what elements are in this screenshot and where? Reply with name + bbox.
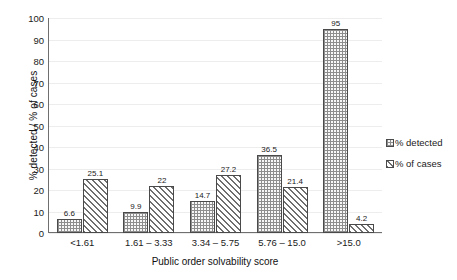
x-tick-label: 1.61 – 3.33	[116, 237, 183, 248]
y-tick-label-20: 20	[14, 185, 44, 196]
bar-value-label: 9.9	[130, 202, 141, 211]
y-tick-label-90: 90	[14, 34, 44, 45]
bar-cases[interactable]: 22	[149, 186, 174, 233]
bar-detected[interactable]: 9.9	[123, 212, 148, 233]
legend-label: % detected	[395, 137, 443, 148]
bar-detected[interactable]: 14.7	[190, 201, 215, 233]
plot-area: 100 90 80 70 60 50 40 30 20 10 0	[48, 18, 382, 233]
bar-cases[interactable]: 21.4	[283, 187, 308, 233]
bar-value-label: 14.7	[195, 191, 211, 200]
bar-value-label: 36.5	[261, 145, 277, 154]
y-tick-label-60: 60	[14, 99, 44, 110]
bar-cases[interactable]: 25.1	[83, 179, 108, 233]
bar-value-label: 21.4	[287, 177, 303, 186]
x-tick-label: 3.34 – 5.75	[182, 237, 249, 248]
bar-detected[interactable]: 6.6	[57, 219, 82, 233]
y-tick-label-40: 40	[14, 142, 44, 153]
bar-group: 9.9 22	[116, 18, 183, 233]
x-tick-label: >15.0	[315, 237, 382, 248]
y-tick-label-80: 80	[14, 56, 44, 67]
bar-cases[interactable]: 27.2	[216, 175, 241, 233]
bar-value-label: 4.2	[356, 214, 367, 223]
legend-swatch-icon	[386, 139, 394, 147]
x-axis-title: Public order solvability score	[48, 256, 382, 267]
bar-group: 36.5 21.4	[249, 18, 316, 233]
gridline-0: 0	[49, 233, 382, 234]
y-tick-label-70: 70	[14, 77, 44, 88]
x-tick-label: 5.76 – 15.0	[249, 237, 316, 248]
bar-value-label: 22	[157, 176, 166, 185]
bar-value-label: 95	[331, 19, 340, 28]
legend-item-cases[interactable]: % of cases	[386, 158, 443, 169]
bar-detected[interactable]: 95	[323, 29, 348, 233]
bar-value-label: 25.1	[88, 169, 104, 178]
bar-detected[interactable]: 36.5	[257, 155, 282, 233]
y-tick-label-30: 30	[14, 163, 44, 174]
x-tick-label: <1.61	[49, 237, 116, 248]
bar-value-label: 6.6	[64, 209, 75, 218]
bar-chart: % detected / % of cases 100 90 80 70 60 …	[0, 0, 457, 280]
bar-groups: 6.6 25.1 9.9 22 14.7 27.2	[49, 18, 382, 233]
legend-label: % of cases	[395, 158, 441, 169]
bar-group: 6.6 25.1	[49, 18, 116, 233]
legend-item-detected[interactable]: % detected	[386, 137, 443, 148]
x-tick-labels: <1.61 1.61 – 3.33 3.34 – 5.75 5.76 – 15.…	[49, 237, 382, 248]
y-tick-label-0: 0	[14, 228, 44, 239]
y-tick-label-100: 100	[14, 13, 44, 24]
y-tick-label-10: 10	[14, 206, 44, 217]
bar-group: 14.7 27.2	[182, 18, 249, 233]
bar-group: 95 4.2	[315, 18, 382, 233]
chart-legend: % detected % of cases	[386, 137, 443, 179]
y-tick-label-50: 50	[14, 120, 44, 131]
legend-swatch-icon	[386, 160, 394, 168]
bar-value-label: 27.2	[221, 165, 237, 174]
bar-cases[interactable]: 4.2	[349, 224, 374, 233]
